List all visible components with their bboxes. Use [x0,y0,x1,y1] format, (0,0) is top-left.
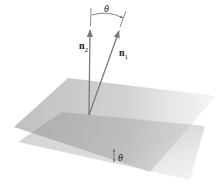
n2-extension-line [91,8,92,26]
planes-normals-diagram: θ n2 n1 θ [0,0,218,194]
angle-label-bottom: θ [118,152,123,163]
angle-label-top: θ [104,3,109,14]
n1-extension-line [120,11,126,27]
n1-label: n1 [119,47,129,61]
n2-label: n2 [79,40,89,54]
